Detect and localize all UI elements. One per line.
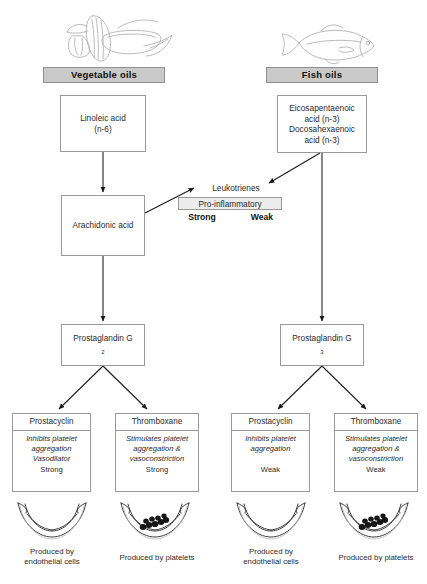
leukotrienes-label: Leukotrienes bbox=[196, 183, 276, 193]
vessel-platelets-icon-2 bbox=[335, 500, 413, 542]
linoleic-acid-line2: (n-6) bbox=[61, 124, 145, 135]
leukotrienes-text: Leukotrienes bbox=[212, 183, 260, 193]
thromboxane-fish-effect-3: vasoconstriction bbox=[335, 454, 417, 464]
prostaglandin-g2-subscript: 2 bbox=[101, 349, 104, 355]
caption-prostacyclin-veg-line2: endothelial cells bbox=[24, 557, 79, 566]
connector-layer bbox=[0, 0, 427, 584]
card-prostacyclin-veg-title: Prostacyclin bbox=[13, 414, 90, 431]
header-fish-oils: Fish oils bbox=[266, 67, 378, 83]
pro-inflammatory-strip: Pro-inflammatory bbox=[178, 197, 282, 210]
arachidonic-acid-label: Arachidonic acid bbox=[62, 220, 144, 231]
card-prostacyclin-fish: Prostacyclin Inhibits platelet aggregati… bbox=[231, 413, 310, 492]
card-prostacyclin-veg-body: Inhibits platelet aggregation Vasodilato… bbox=[13, 431, 90, 475]
prostaglandin-g3-name: Prostaglandin G bbox=[281, 333, 363, 344]
leukotriene-potency-right: Weak bbox=[240, 212, 284, 222]
pathway-diagram: Vegetable oils Fish oils Linoleic acid (… bbox=[0, 0, 427, 584]
card-thromboxane-fish-body: Stimulates platelet aggregation & vasoco… bbox=[335, 431, 417, 475]
pro-inflammatory-label: Pro-inflammatory bbox=[198, 199, 261, 209]
vessel-endothelium-icon-2 bbox=[232, 500, 310, 542]
leukotriene-potency-right-label: Weak bbox=[251, 212, 273, 222]
thromboxane-veg-potency: Strong bbox=[116, 465, 198, 475]
header-fish-oils-label: Fish oils bbox=[302, 69, 342, 80]
thromboxane-veg-effect-2: aggregation & bbox=[116, 444, 198, 454]
dha-line1: Docosahexaenoic bbox=[278, 124, 366, 135]
node-prostaglandin-g2: Prostaglandin G2 bbox=[61, 324, 145, 366]
vessel-platelets-icon-1 bbox=[116, 500, 194, 542]
thromboxane-fish-potency: Weak bbox=[335, 465, 417, 475]
node-linoleic-acid: Linoleic acid (n-6) bbox=[60, 95, 146, 152]
node-arachidonic-acid: Arachidonic acid bbox=[61, 195, 145, 256]
caption-thromboxane-veg-line1: Produced by platelets bbox=[120, 553, 195, 562]
header-vegetable-oils-label: Vegetable oils bbox=[71, 69, 137, 80]
caption-prostacyclin-fish: Produced by endothelial cells bbox=[227, 547, 315, 566]
leukotriene-potency-left-label: Strong bbox=[188, 212, 216, 222]
thromboxane-fish-effect-2: aggregation & bbox=[335, 444, 417, 454]
linoleic-acid-line1: Linoleic acid bbox=[61, 113, 145, 124]
card-thromboxane-fish: Thromboxane Stimulates platelet aggregat… bbox=[334, 413, 418, 492]
epa-line2: acid (n-3) bbox=[278, 114, 366, 125]
prostaglandin-g2-name: Prostaglandin G bbox=[62, 333, 144, 344]
card-prostacyclin-fish-title: Prostacyclin bbox=[232, 414, 309, 431]
card-thromboxane-veg-title: Thromboxane bbox=[116, 414, 198, 431]
prostaglandin-g3-subscript: 3 bbox=[320, 349, 323, 355]
vessel-endothelium-icon-1 bbox=[13, 500, 91, 542]
caption-prostacyclin-veg: Produced by endothelial cells bbox=[8, 547, 96, 566]
card-thromboxane-veg-body: Stimulates platelet aggregation & vasoco… bbox=[116, 431, 198, 475]
prostacyclin-fish-effect-3-blank bbox=[232, 454, 309, 464]
leukotriene-potency-left: Strong bbox=[177, 212, 227, 222]
caption-prostacyclin-fish-line1: Produced by bbox=[249, 547, 293, 556]
caption-thromboxane-fish: Produced by platelets bbox=[326, 553, 426, 563]
header-vegetable-oils: Vegetable oils bbox=[43, 67, 165, 83]
fish-sketch-icon bbox=[277, 20, 381, 64]
epa-line1: Eicosapentaenoic bbox=[278, 103, 366, 114]
thromboxane-veg-effect-1: Stimulates platelet bbox=[116, 434, 198, 444]
caption-thromboxane-fish-line1: Produced by platelets bbox=[339, 553, 414, 562]
prostacyclin-veg-effect-3: Vasodilator bbox=[13, 454, 90, 464]
caption-prostacyclin-veg-line1: Produced by bbox=[30, 547, 74, 556]
thromboxane-fish-effect-1: Stimulates platelet bbox=[335, 434, 417, 444]
card-prostacyclin-fish-body: Inhibits platelet aggregation Weak bbox=[232, 431, 309, 475]
prostacyclin-veg-effect-2: aggregation bbox=[13, 444, 90, 454]
prostacyclin-veg-effect-1: Inhibits platelet bbox=[13, 434, 90, 444]
card-prostacyclin-veg: Prostacyclin Inhibits platelet aggregati… bbox=[12, 413, 91, 492]
prostacyclin-veg-potency: Strong bbox=[13, 465, 90, 475]
card-thromboxane-fish-title: Thromboxane bbox=[335, 414, 417, 431]
caption-prostacyclin-fish-line2: endothelial cells bbox=[243, 557, 298, 566]
prostacyclin-fish-effect-2: aggregation bbox=[232, 444, 309, 454]
thromboxane-veg-effect-3: vasoconstriction bbox=[116, 454, 198, 464]
node-epa-dha: Eicosapentaenoic acid (n-3) Docosahexaen… bbox=[277, 95, 367, 153]
vegetables-corn-sketch-icon bbox=[58, 6, 176, 64]
prostacyclin-fish-effect-1: Inhibits platelet bbox=[232, 434, 309, 444]
prostacyclin-fish-potency: Weak bbox=[232, 465, 309, 475]
node-prostaglandin-g3: Prostaglandin G3 bbox=[280, 324, 364, 366]
caption-thromboxane-veg: Produced by platelets bbox=[107, 553, 207, 563]
dha-line2: acid (n-3) bbox=[278, 135, 366, 146]
card-thromboxane-veg: Thromboxane Stimulates platelet aggregat… bbox=[115, 413, 199, 492]
